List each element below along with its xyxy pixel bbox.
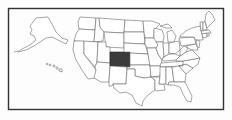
state-montana	[99, 18, 125, 33]
state-arkansas	[150, 66, 161, 77]
state-mississippi	[159, 67, 166, 84]
state-wisconsin	[154, 28, 164, 42]
state-connecticut	[202, 33, 207, 38]
state-ohio	[169, 41, 180, 54]
us-map-svg	[0, 0, 232, 120]
state-south-dakota	[124, 32, 145, 44]
state-new-mexico	[109, 66, 127, 86]
alaska-aleutians	[14, 51, 18, 52]
state-arizona	[94, 62, 110, 82]
state-north-dakota	[124, 20, 144, 32]
state-alaska	[18, 17, 68, 52]
locator-map	[0, 0, 232, 120]
state-hawaii	[46, 63, 62, 72]
state-oregon	[74, 29, 95, 42]
state-kansas	[130, 53, 150, 65]
state-colorado-highlighted	[110, 52, 130, 67]
state-rhode-island	[207, 33, 209, 36]
state-wyoming	[104, 32, 124, 48]
state-florida	[168, 82, 192, 102]
state-washington	[78, 17, 96, 30]
state-maine	[205, 11, 215, 28]
